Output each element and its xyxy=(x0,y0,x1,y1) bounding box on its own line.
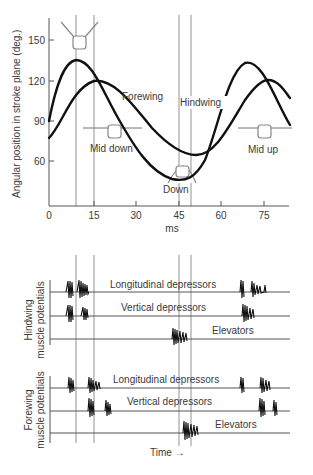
spike-burst xyxy=(183,421,198,440)
forewing-label: Forewing xyxy=(122,91,163,102)
hindwing-curve xyxy=(49,60,290,180)
forewing-ylabel-2: muscle potentials xyxy=(35,371,46,448)
ytick-60: 60 xyxy=(34,156,46,167)
forewing-longitudinal-label: Longitudinal depressors xyxy=(113,374,219,385)
ytick-120: 120 xyxy=(28,76,45,87)
angular-position-chart: 150 120 90 60 0 15 30 45 60 75 ms Angula… xyxy=(11,15,292,234)
muscle-potentials-chart: Hindwing muscle potentials Longitudinal … xyxy=(23,255,290,458)
hindwing-ylabel-2: muscle potentials xyxy=(35,281,46,358)
xtick-60: 60 xyxy=(215,210,227,221)
mid-down-label: Mid down xyxy=(90,143,133,154)
time-axis-label: Time → xyxy=(150,447,185,458)
xtick-45: 45 xyxy=(173,210,185,221)
hindwing-elevators-label: Elevators xyxy=(212,325,254,336)
ytick-150: 150 xyxy=(28,35,45,46)
spike-burst xyxy=(172,328,187,345)
hindwing-ylabel-1: Hindwing xyxy=(23,299,34,340)
forewing-ylabel-1: Forewing xyxy=(23,389,34,430)
hindwing-longitudinal-label: Longitudinal depressors xyxy=(110,279,216,290)
xtick-15: 15 xyxy=(88,210,100,221)
wing-mid-up-icon xyxy=(238,125,292,138)
mid-up-label: Mid up xyxy=(248,144,278,155)
x-axis-label: ms xyxy=(165,223,178,234)
wing-up-icon xyxy=(61,22,98,49)
xtick-30: 30 xyxy=(130,210,142,221)
y-axis-label: Angular position in stroke plane (deg.) xyxy=(11,30,22,198)
forewing-elevators-label: Elevators xyxy=(215,419,257,430)
down-label: Down xyxy=(163,184,189,195)
xtick-0: 0 xyxy=(46,210,52,221)
wing-mid-down-icon xyxy=(83,125,142,138)
xtick-75: 75 xyxy=(258,210,270,221)
hindwing-label: Hindwing xyxy=(180,97,221,108)
ytick-90: 90 xyxy=(34,116,46,127)
wing-kinematics-diagram: 150 120 90 60 0 15 30 45 60 75 ms Angula… xyxy=(0,0,313,475)
forewing-vertical-label: Vertical depressors xyxy=(127,396,212,407)
hindwing-vertical-label: Vertical depressors xyxy=(121,302,206,313)
